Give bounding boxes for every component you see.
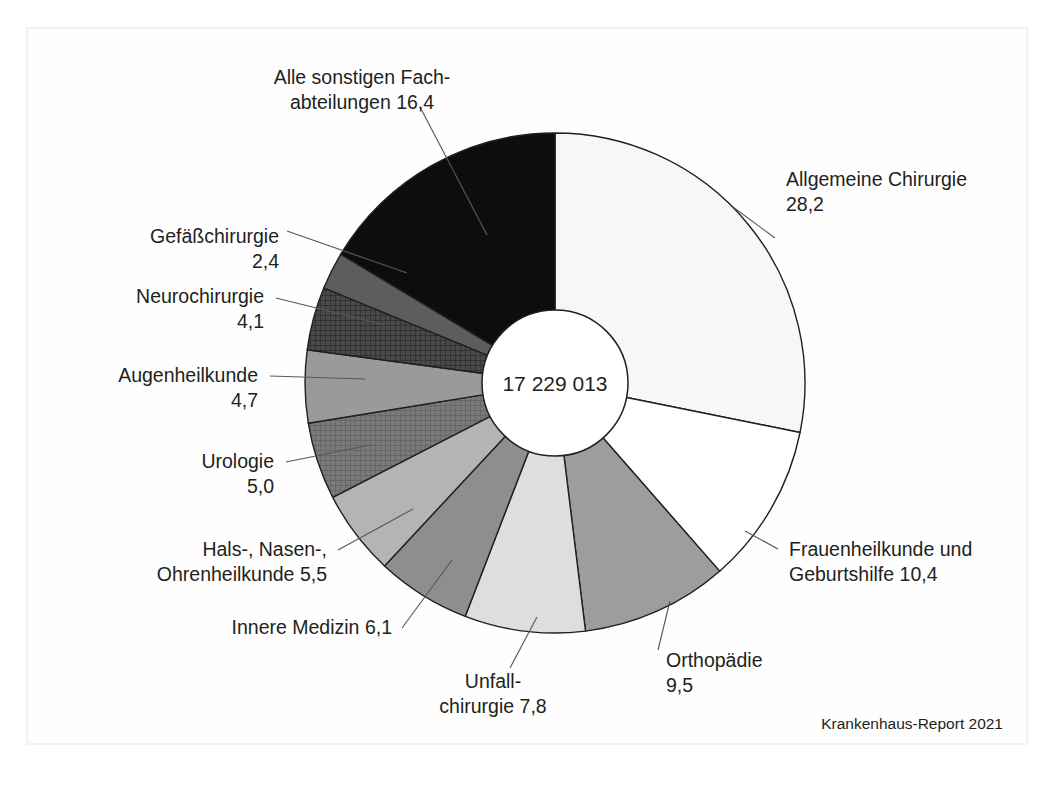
slice-label-neurochirurgie: 4,1 [237, 310, 264, 332]
slice-label-alle-sonstigen: abteilungen 16,4 [290, 91, 434, 113]
slice-label-hno: Ohrenheilkunde 5,5 [157, 563, 327, 585]
donut-chart: 17 229 013 Allgemeine Chirurgie28,2Fraue… [0, 0, 1056, 786]
slice-label-gefaesschirurgie: 2,4 [252, 250, 279, 272]
slice-label-innere-medizin: Innere Medizin 6,1 [232, 616, 392, 638]
slice-label-frauenheilkunde: Geburtshilfe 10,4 [789, 563, 938, 585]
center-total-value: 17 229 013 [502, 372, 607, 395]
slice-label-unfallchirurgie: Unfall- [465, 670, 521, 692]
slice-label-orthopaedie: 9,5 [666, 674, 693, 696]
slice-label-unfallchirurgie: chirurgie 7,8 [439, 695, 546, 717]
figure-page: 17 229 013 Allgemeine Chirurgie28,2Fraue… [0, 0, 1056, 786]
slice-label-urologie: 5,0 [247, 475, 274, 497]
slice-label-urologie: Urologie [201, 450, 274, 472]
source-credit: Krankenhaus-Report 2021 [821, 715, 1003, 732]
slice-label-alle-sonstigen: Alle sonstigen Fach- [274, 66, 451, 88]
slice-label-gefaesschirurgie: Gefäßchirurgie [150, 225, 279, 247]
slice-label-orthopaedie: Orthopädie [666, 649, 762, 671]
slice-label-neurochirurgie: Neurochirurgie [136, 285, 264, 307]
slice-label-augenheilkunde: Augenheilkunde [118, 364, 258, 386]
slice-label-allgemeine-chirurgie: 28,2 [786, 193, 824, 215]
slice-label-hno: Hals-, Nasen-, [202, 538, 327, 560]
slice-label-augenheilkunde: 4,7 [231, 389, 258, 411]
slice-label-allgemeine-chirurgie: Allgemeine Chirurgie [786, 168, 967, 190]
slice-label-frauenheilkunde: Frauenheilkunde und [789, 538, 972, 560]
